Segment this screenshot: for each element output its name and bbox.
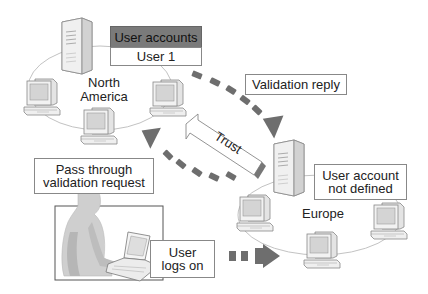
na-computer-icon-left [24,79,60,115]
user-accounts-row: User 1 [110,47,202,66]
eu-computer-icon-left [237,195,273,231]
region-label-europe: Europe [298,207,348,221]
callout-line: logs on [162,259,204,272]
callout-line: validation request [43,176,145,189]
eu-computer-icon-right [371,203,407,239]
region-label-line: America [76,90,132,104]
region-label-line: North [76,76,132,90]
eu-server-icon [274,140,304,196]
user-logs-on-callout: User logs on [150,240,215,278]
pass-through-callout: Pass through validation request [34,158,154,194]
user-accounts-header: User accounts [110,26,202,48]
callout-line: not defined [328,182,392,195]
user-account-not-defined-callout: User account not defined [314,164,407,200]
na-computer-icon-right [150,80,186,116]
eu-computer-icon-bottom [304,232,340,268]
user-photo [55,187,163,281]
region-label-north-america: North America [76,76,132,104]
validation-reply-callout: Validation reply [245,74,347,95]
diagram-canvas: North America Europe User accounts User … [0,0,428,294]
na-server-icon [62,18,92,74]
na-computer-icon-bottom [81,108,117,144]
